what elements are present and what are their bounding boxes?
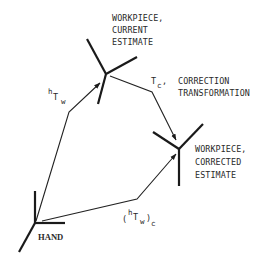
svg-text:c: c	[151, 219, 156, 228]
current-estimate-frame	[87, 39, 137, 104]
svg-text:T: T	[53, 92, 58, 102]
hTw-c-label: ( h T w ) c	[122, 208, 156, 228]
svg-text:WORKPIECE,: WORKPIECE,	[112, 13, 163, 23]
svg-text:w: w	[61, 97, 66, 106]
svg-text:WORKPIECE,: WORKPIECE,	[195, 144, 246, 154]
svg-text:w: w	[140, 217, 145, 226]
tc-label: T c , CORRECTION TRANSFORMATION	[151, 76, 250, 98]
svg-text:TRANSFORMATION: TRANSFORMATION	[178, 88, 250, 98]
transform-diagram: WORKPIECE, CURRENT ESTIMATE WORKPIECE, C…	[0, 0, 272, 266]
hTw-c-arrow	[42, 154, 176, 221]
svg-text:CORRECTION: CORRECTION	[178, 76, 229, 86]
svg-text:CORRECTED: CORRECTED	[195, 157, 241, 167]
hTw-label: h T w	[48, 87, 66, 106]
svg-text:c: c	[157, 81, 162, 90]
svg-text:h: h	[48, 87, 53, 96]
svg-text:ESTIMATE: ESTIMATE	[112, 37, 153, 47]
svg-text:CURRENT: CURRENT	[112, 25, 148, 35]
svg-text:T: T	[133, 212, 138, 222]
svg-text:(: (	[122, 214, 127, 224]
current-estimate-label: WORKPIECE, CURRENT ESTIMATE	[112, 13, 163, 47]
svg-text:T: T	[151, 76, 156, 86]
svg-text:h: h	[128, 208, 133, 217]
hand-label: HAND	[38, 232, 63, 242]
corrected-estimate-label: WORKPIECE, CORRECTED ESTIMATE	[195, 144, 246, 180]
svg-text:,: ,	[162, 76, 167, 86]
hTw-arrow	[36, 83, 100, 221]
svg-text:ESTIMATE: ESTIMATE	[195, 170, 236, 180]
